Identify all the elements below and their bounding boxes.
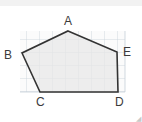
- vertex-label-d: D: [115, 96, 124, 108]
- geometry-figure-canvas: A B C D E ◢: [0, 0, 142, 122]
- corner-mark-icon: ◢: [136, 116, 141, 121]
- vertex-label-a: A: [64, 15, 72, 27]
- vertex-label-c: C: [36, 96, 45, 108]
- vertex-label-b: B: [4, 49, 12, 61]
- vertex-label-e: E: [123, 46, 131, 58]
